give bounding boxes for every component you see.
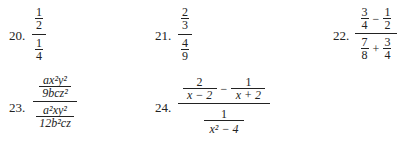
main-fraction-bar: [33, 101, 77, 102]
numerator: 3: [362, 6, 368, 18]
denominator: 8: [361, 48, 369, 61]
operator: −: [373, 13, 380, 25]
problem-number: 21.: [155, 28, 171, 44]
denominator: 4: [383, 48, 391, 61]
denominator: x + 2: [231, 88, 265, 101]
main-fraction-bar: [355, 33, 397, 34]
denominator: 4: [361, 18, 369, 31]
problem-number: 20.: [9, 28, 25, 44]
complex-fraction: 34 − 12 78 + 34: [355, 6, 397, 61]
main-fraction-bar: [178, 34, 192, 35]
problem-number: 24.: [155, 100, 171, 116]
numerator: ax²y²: [43, 74, 67, 86]
operator: −: [221, 83, 228, 95]
complex-fraction: 2 3 4 9: [178, 6, 192, 62]
denominator: 9bcz²: [39, 86, 71, 99]
denominator: x² − 4: [204, 120, 244, 135]
denominator: x − 2: [183, 88, 217, 101]
complex-fraction: 1 2 1 4: [32, 6, 46, 62]
numerator: 1: [384, 6, 390, 18]
numerator: 1: [36, 6, 42, 18]
complex-fraction: ax²y² 9bcz² a²xy² 12b²cz: [33, 74, 77, 129]
numerator: 2: [182, 6, 188, 18]
denominator: 2: [383, 18, 391, 31]
denominator: 9: [181, 49, 189, 62]
numerator: 1: [245, 76, 251, 88]
numerator: 1: [36, 37, 42, 49]
problem-number: 23.: [9, 100, 25, 116]
complex-fraction: 2x − 2 − 1x + 2 1 x² − 4: [178, 76, 270, 135]
numerator: 7: [362, 36, 368, 48]
denominator: 2: [35, 18, 43, 31]
numerator: 2: [197, 76, 203, 88]
numerator: 3: [384, 36, 390, 48]
denominator: 3: [181, 18, 189, 31]
problem-number: 22.: [333, 28, 349, 44]
denominator: 12b²cz: [36, 116, 74, 129]
main-fraction-bar: [178, 103, 270, 104]
numerator: a²xy²: [43, 104, 67, 116]
denominator: 4: [35, 49, 43, 62]
operator: +: [373, 43, 380, 55]
numerator: 1: [221, 108, 227, 120]
main-fraction-bar: [32, 34, 46, 35]
numerator: 4: [182, 37, 188, 49]
